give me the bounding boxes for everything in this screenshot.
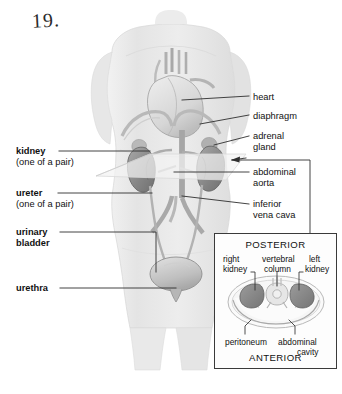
label-urinary-bladder: urinary	[16, 227, 48, 239]
inset-label-abdominal-cavity: abdominal	[278, 337, 317, 347]
inset-label-right-kidney: right	[223, 254, 239, 264]
label-abdominal-aorta: abdominal	[253, 167, 296, 179]
inset-label-vertebral-column: vertebral	[262, 254, 295, 264]
label-ureter: ureter	[16, 188, 42, 200]
label-kidney: kidney	[16, 146, 45, 158]
inset-orientation-anterior: ANTERIOR	[215, 352, 336, 363]
label-urethra: urethra	[16, 283, 48, 295]
label-urinary-bladder-line2: bladder	[16, 238, 50, 250]
inset-label-right-kidney-line2: kidney	[223, 264, 247, 274]
label-diaphragm: diaphragm	[253, 111, 297, 123]
figure-page: 19.	[0, 0, 342, 394]
label-kidney-sub: (one of a pair)	[16, 157, 74, 169]
label-heart: heart	[253, 92, 274, 104]
label-adrenal-gland-line2: gland	[253, 142, 276, 154]
cross-section-inset-panel: POSTERIOR	[214, 233, 337, 369]
inset-label-vertebral-column-line2: column	[264, 264, 291, 274]
label-adrenal-gland: adrenal	[253, 131, 284, 143]
inset-label-peritoneum: peritoneum	[225, 337, 267, 347]
inset-label-left-kidney-line2: kidney	[305, 264, 329, 274]
label-inferior-vena-cava-line2: vena cava	[253, 210, 295, 222]
label-ureter-sub: (one of a pair)	[16, 199, 74, 211]
label-abdominal-aorta-line2: aorta	[253, 178, 274, 190]
inset-label-left-kidney: left	[309, 254, 320, 264]
label-inferior-vena-cava: inferior	[253, 199, 281, 211]
